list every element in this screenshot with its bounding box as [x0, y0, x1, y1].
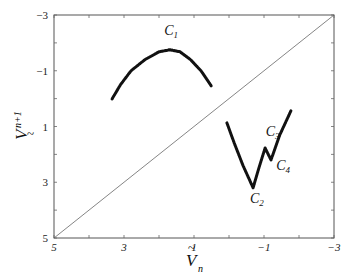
- return-map-chart: 531−1−3−3−1135 C1C2C3C4 V n ~ V n+1 ~: [0, 0, 351, 279]
- curve-label-c1: C1: [164, 23, 178, 40]
- identity-line: [54, 15, 334, 238]
- y-tick-label: −3: [36, 9, 48, 21]
- series-c1: [112, 50, 211, 99]
- y-axis-label-sub: n+1: [12, 111, 23, 128]
- x-tick-label: 5: [51, 241, 57, 253]
- y-tick-label: 5: [43, 232, 49, 244]
- y-axis-label: V n+1 ~: [12, 111, 34, 141]
- x-axis-label: V n ~: [186, 240, 203, 274]
- curve-annotations: C1C2C3C4: [164, 23, 290, 209]
- x-tick-label: −3: [328, 241, 341, 253]
- y-axis-tilde: ~: [27, 126, 34, 141]
- series-c2-c3-c4: [227, 111, 291, 188]
- x-axis-tilde: ~: [188, 240, 195, 255]
- x-tick-label: −1: [258, 241, 271, 253]
- curve-label-c2: C2: [250, 191, 264, 208]
- x-tick-label: 3: [120, 241, 127, 253]
- x-axis-label-sub: n: [198, 263, 203, 274]
- y-tick-label: 3: [43, 176, 49, 188]
- y-tick-label: 1: [43, 121, 49, 133]
- curve-label-c3: C3: [266, 124, 280, 141]
- curve-label-c4: C4: [276, 158, 290, 175]
- y-tick-label: −1: [36, 65, 48, 77]
